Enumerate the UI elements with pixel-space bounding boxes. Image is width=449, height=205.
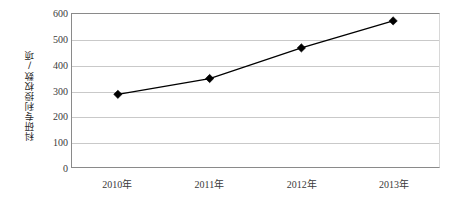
data-point-marker	[205, 74, 213, 82]
x-axis-tick-label: 2012年	[287, 176, 317, 191]
y-axis-tick-label: 400	[32, 59, 68, 70]
y-axis-tick-label: 100	[32, 137, 68, 148]
data-point-marker	[297, 44, 305, 52]
plot-area	[71, 13, 440, 168]
x-axis-tick-label: 2013年	[379, 176, 409, 191]
line-chart: 科研专利授权数/项 0100200300400500600 2010年2011年…	[0, 0, 449, 205]
data-point-marker	[389, 17, 397, 25]
x-axis-tick-label: 2010年	[102, 176, 132, 191]
y-axis-tick-label: 600	[32, 8, 68, 19]
x-axis-tick-label: 2011年	[195, 176, 225, 191]
y-axis-tick-label: 0	[32, 163, 68, 174]
series-line	[118, 21, 393, 94]
data-series-line	[72, 14, 439, 167]
x-axis-tick-labels: 2010年2011年2012年2013年	[0, 176, 449, 192]
y-axis-tick-label: 300	[32, 85, 68, 96]
y-axis-tick-labels: 0100200300400500600	[32, 0, 68, 205]
y-axis-tick-label: 200	[32, 111, 68, 122]
data-point-marker	[114, 90, 122, 98]
y-axis-tick-label: 500	[32, 33, 68, 44]
